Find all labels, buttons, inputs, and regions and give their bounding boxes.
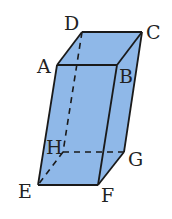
- label-F: F: [101, 184, 114, 206]
- parallelepiped-diagram: D C A B H G E F: [0, 0, 172, 219]
- label-H: H: [46, 136, 63, 158]
- label-D: D: [64, 12, 79, 34]
- faces: [38, 32, 142, 185]
- label-E: E: [18, 180, 32, 202]
- label-G: G: [128, 148, 143, 170]
- label-C: C: [146, 21, 161, 43]
- label-A: A: [36, 55, 51, 77]
- label-B: B: [119, 65, 133, 87]
